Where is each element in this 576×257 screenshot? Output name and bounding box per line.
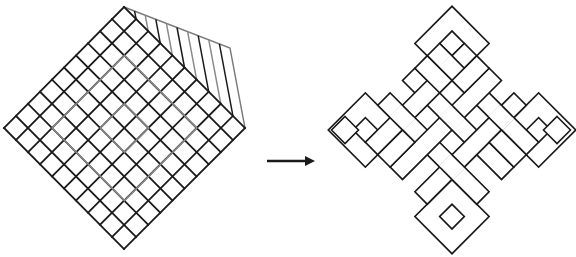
endless-knot-figure	[328, 6, 575, 253]
arrow-head	[305, 156, 315, 166]
rotated-grid-figure	[4, 7, 245, 249]
diagram-canvas	[0, 0, 576, 257]
transform-arrow-icon	[267, 156, 315, 166]
